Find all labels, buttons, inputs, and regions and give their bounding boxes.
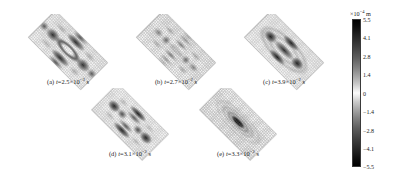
colorbar: ×10−4 m 5.5 4.1 2.8 1.4 0 −1.4 −2.8 −4.1… <box>348 10 403 170</box>
colorbar-tick-1: 4.1 <box>363 35 371 41</box>
panel-a-caption: (a) t=2.5×10−3 s <box>14 78 122 86</box>
panel-b: (b) t=2.7×10−2 s <box>122 14 230 94</box>
panel-e-value: 3.3 <box>231 150 239 157</box>
colorbar-unit-exponent: −4 <box>360 9 365 14</box>
panel-c-value: 3.9 <box>277 78 285 85</box>
colorbar-tick-6: −2.8 <box>363 128 374 134</box>
panel-a-unit: s <box>86 78 89 85</box>
panel-a-exponent: −3 <box>80 77 85 82</box>
panel-d-value: 3.1 <box>124 150 132 157</box>
panel-a: (a) t=2.5×10−3 s <box>14 14 122 94</box>
colorbar-tick-8: −5.5 <box>363 164 374 170</box>
panel-a-caption-prefix: (a) <box>47 78 54 85</box>
colorbar-tick-3: 1.4 <box>363 72 371 78</box>
panel-e-caption-prefix: (e) <box>217 150 224 157</box>
panel-e: (e) t=3.3×10−2 s <box>184 88 292 168</box>
panel-b-value: 2.7 <box>170 78 178 85</box>
panel-c-unit: s <box>302 78 305 85</box>
panel-e-exponent: −2 <box>250 149 255 154</box>
colorbar-tick-7: −4.1 <box>363 146 374 152</box>
panel-b-unit: s <box>195 78 198 85</box>
panel-e-unit: s <box>256 150 259 157</box>
panel-d-exponent: −2 <box>142 149 147 154</box>
panel-c: (c) t=3.9×10−2 s <box>230 14 338 94</box>
colorbar-tick-5: −1.4 <box>363 109 374 115</box>
panel-c-caption-prefix: (c) <box>263 78 270 85</box>
panel-a-value: 2.5 <box>61 78 69 85</box>
panel-b-caption-prefix: (b) <box>155 78 163 85</box>
colorbar-tick-2: 2.8 <box>363 54 371 60</box>
panel-e-caption: (e) t=3.3×10−2 s <box>184 150 292 158</box>
panel-d-unit: s <box>149 150 152 157</box>
colorbar-tick-4: 0 <box>363 91 366 97</box>
panel-d-caption-prefix: (d) <box>109 150 117 157</box>
colorbar-tick-0: 5.5 <box>363 17 371 23</box>
panel-b-caption: (b) t=2.7×10−2 s <box>122 78 230 86</box>
panel-c-caption: (c) t=3.9×10−2 s <box>230 78 338 86</box>
panel-c-exponent: −2 <box>296 77 301 82</box>
panel-d-caption: (d) t=3.1×10−2 s <box>76 150 184 158</box>
figure-wavefield-snapshots: (a) t=2.5×10−3 s (b) t=2.7×10−2 s <box>0 0 403 178</box>
colorbar-gradient <box>352 19 361 167</box>
panel-b-exponent: −2 <box>188 77 193 82</box>
panel-d: (d) t=3.1×10−2 s <box>76 88 184 168</box>
colorbar-unit-multiplier: ×10 <box>350 10 360 17</box>
